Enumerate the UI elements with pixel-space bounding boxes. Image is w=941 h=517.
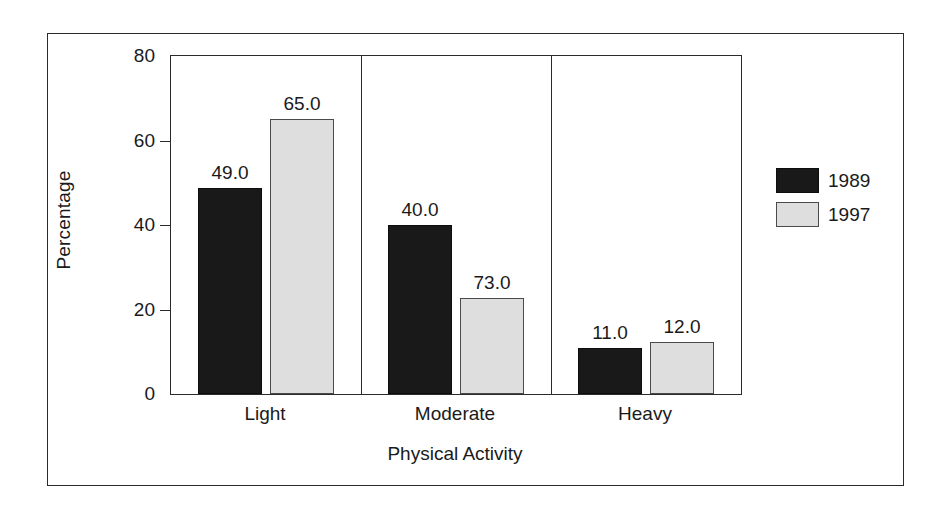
y-tick-label: 0 <box>144 383 155 405</box>
group-separator <box>551 56 552 394</box>
bar-value-label: 12.0 <box>664 316 701 338</box>
bar-value-label: 40.0 <box>402 199 439 221</box>
bar-moderate-1997[interactable]: 73.0 <box>460 298 524 394</box>
group-separator <box>361 56 362 394</box>
bar-value-label: 65.0 <box>284 93 321 115</box>
legend-entry-1989[interactable]: 1989 <box>776 168 870 193</box>
bar-value-label: 49.0 <box>212 162 249 184</box>
legend: 19891997 <box>776 168 870 236</box>
y-tick-mark <box>160 141 171 142</box>
black-swatch <box>776 168 819 193</box>
x-axis-title: Physical Activity <box>170 443 740 465</box>
category-label-heavy: Heavy <box>618 403 672 425</box>
category-label-light: Light <box>244 403 285 425</box>
bar-value-label: 73.0 <box>474 272 511 294</box>
bar-light-1989[interactable]: 49.0 <box>198 188 262 394</box>
bar-heavy-1989[interactable]: 11.0 <box>578 348 642 394</box>
y-tick-label: 20 <box>134 299 155 321</box>
bar-moderate-1989[interactable]: 40.0 <box>388 225 452 394</box>
y-tick-label: 60 <box>134 130 155 152</box>
y-tick-mark <box>160 225 171 226</box>
category-label-moderate: Moderate <box>415 403 495 425</box>
bar-heavy-1997[interactable]: 12.0 <box>650 342 714 394</box>
legend-entry-1997[interactable]: 1997 <box>776 202 870 227</box>
y-tick-mark <box>160 310 171 311</box>
legend-label: 1989 <box>828 170 870 192</box>
bar-light-1997[interactable]: 65.0 <box>270 119 334 394</box>
bar-value-label: 11.0 <box>592 322 628 344</box>
y-axis-title-text: Percentage <box>53 170 75 269</box>
y-tick-label: 80 <box>134 45 155 67</box>
figure-canvas: Percentage 020406080 49.065.040.073.011.… <box>0 0 941 517</box>
y-tick-label: 40 <box>134 214 155 236</box>
light-gray-swatch <box>776 202 819 227</box>
legend-label: 1997 <box>828 204 870 226</box>
plot-area: 020406080 49.065.040.073.011.012.0 <box>170 55 742 395</box>
y-axis-title: Percentage <box>47 130 81 310</box>
